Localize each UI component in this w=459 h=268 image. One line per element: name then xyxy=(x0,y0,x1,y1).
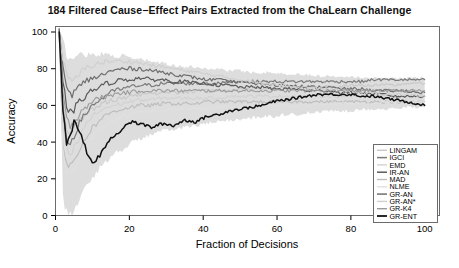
x-tick-label: 20 xyxy=(124,223,135,234)
chart-container: 184 Filtered Cause−Effect Pairs Extracte… xyxy=(0,0,459,268)
x-tick-label: 60 xyxy=(272,223,283,234)
x-tick-label: 80 xyxy=(346,223,357,234)
y-tick-label: 40 xyxy=(37,137,48,148)
x-tick-label: 40 xyxy=(198,223,209,234)
y-axis-label: Accuracy xyxy=(5,98,17,144)
y-tick-label: 100 xyxy=(32,26,48,37)
x-tick-label: 100 xyxy=(417,223,433,234)
x-axis-label: Fraction of Decisions xyxy=(196,238,299,250)
confidence-band-group xyxy=(59,29,425,216)
chart-plot: 020406080100 020406080100 Fraction of De… xyxy=(0,0,459,268)
legend-label-gr-ent[interactable]: GR-ENT xyxy=(390,212,418,221)
y-axis-ticks: 020406080100 xyxy=(32,26,56,220)
y-tick-label: 20 xyxy=(37,173,48,184)
y-tick-label: 60 xyxy=(37,100,48,111)
legend[interactable]: LINGAMIGCIEMDIR-ANMADNLMEGR-ANGR-AN*GR-K… xyxy=(374,145,438,223)
confidence-band xyxy=(59,29,425,216)
y-tick-label: 0 xyxy=(42,210,47,221)
y-tick-label: 80 xyxy=(37,63,48,74)
x-tick-label: 0 xyxy=(53,223,58,234)
